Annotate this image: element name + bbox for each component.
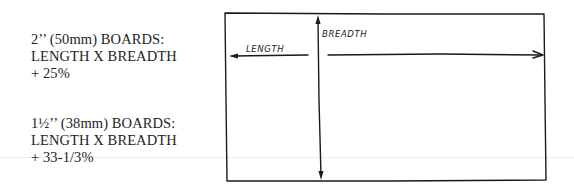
- arrowhead-left-icon: [229, 54, 238, 59]
- length-label: LENGTH: [246, 44, 284, 54]
- breadth-label: BREADTH: [322, 29, 367, 39]
- board-outline: [225, 13, 546, 181]
- length-arrow-left-shaft: [232, 55, 308, 56]
- arrowhead-down-icon: [319, 171, 324, 180]
- arrowhead-up-icon: [316, 15, 321, 24]
- breadth-arrow-shaft: [318, 20, 321, 176]
- board-diagram: LENGTH BREADTH: [0, 0, 574, 193]
- length-arrow-right-shaft: [328, 54, 542, 55]
